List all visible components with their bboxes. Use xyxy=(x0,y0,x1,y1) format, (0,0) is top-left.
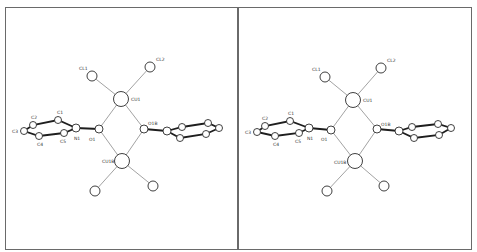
atom-cl2b xyxy=(148,181,158,191)
atom-c2b xyxy=(435,121,442,128)
atom-cl2b xyxy=(379,181,389,191)
atom-c5 xyxy=(61,130,68,137)
atom-c2 xyxy=(30,122,37,129)
label-o1b: O1B xyxy=(381,122,391,127)
atom-cl1b xyxy=(322,186,332,196)
atom-c1b xyxy=(179,124,186,131)
atom-c1 xyxy=(55,117,62,124)
atom-c4 xyxy=(272,133,279,140)
atom-c2 xyxy=(262,123,269,130)
atom-cl1 xyxy=(87,71,97,81)
label-c3: C3 xyxy=(245,130,251,135)
label-cl1: CL1 xyxy=(312,67,321,72)
atom-c4b xyxy=(436,132,443,139)
atom-n1b xyxy=(395,127,403,135)
atom-cu1 xyxy=(114,92,129,107)
atom-c2b xyxy=(205,120,212,127)
atom-c4 xyxy=(36,133,43,140)
right-stereo-view: CL1 CL2 CU1 O1 O1B CU1B N1 C1 C2 C3 C4 C… xyxy=(237,0,477,252)
ligand-bonds-left xyxy=(257,121,331,136)
label-cl1: CL1 xyxy=(79,66,88,71)
atom-c3b xyxy=(448,125,455,132)
label-o1: O1 xyxy=(321,137,328,142)
atom-cl2 xyxy=(145,62,155,72)
atom-o1 xyxy=(95,125,103,133)
label-c1: C1 xyxy=(288,111,294,116)
atom-cl2 xyxy=(376,63,386,73)
atom-n1 xyxy=(305,124,313,132)
atom-c4b xyxy=(203,131,210,138)
label-o1b: O1B xyxy=(148,121,158,126)
atoms xyxy=(21,62,223,196)
atom-o1 xyxy=(327,126,335,134)
label-c4: C4 xyxy=(273,142,279,147)
label-cu1: CU1 xyxy=(363,98,372,103)
atom-cu1 xyxy=(346,93,361,108)
label-cl2: CL2 xyxy=(156,57,165,62)
atom-cl1 xyxy=(320,72,330,82)
atom-c3b xyxy=(216,125,223,132)
atom-c3 xyxy=(254,129,261,136)
label-c3: C3 xyxy=(12,129,18,134)
atom-c5b xyxy=(177,135,184,142)
atom-cu1b xyxy=(115,154,130,169)
atom-cu1b xyxy=(348,154,363,169)
atom-o1b xyxy=(140,125,148,133)
atom-n1 xyxy=(72,124,80,132)
label-c1: C1 xyxy=(57,110,63,115)
atom-c1 xyxy=(287,118,294,125)
atom-cl1b xyxy=(90,186,100,196)
label-n1: N1 xyxy=(307,136,313,141)
label-c4: C4 xyxy=(37,142,43,147)
atoms xyxy=(254,63,455,196)
atom-c3 xyxy=(21,128,28,135)
label-cu1b: CU1B xyxy=(102,159,114,164)
label-o1: O1 xyxy=(89,137,96,142)
label-c5: C5 xyxy=(60,139,66,144)
atom-c5b xyxy=(411,135,418,142)
label-cu1: CU1 xyxy=(131,97,140,102)
left-stereo-view: CL1 CL2 CU1 O1 O1B CU1B N1 C1 C2 C3 C4 C… xyxy=(0,0,238,252)
label-c2: C2 xyxy=(262,116,268,121)
atom-o1b xyxy=(373,125,381,133)
atom-n1b xyxy=(163,127,171,135)
label-cu1b: CU1B xyxy=(334,160,346,165)
label-cl2: CL2 xyxy=(387,58,396,63)
label-n1: N1 xyxy=(74,136,80,141)
atom-c5 xyxy=(296,130,303,137)
atom-c1b xyxy=(409,124,416,131)
label-c5: C5 xyxy=(295,139,301,144)
label-c2: C2 xyxy=(31,115,37,120)
atom-labels: CL1 CL2 CU1 O1 O1B CU1B N1 C1 C2 C3 C4 C… xyxy=(245,58,396,165)
